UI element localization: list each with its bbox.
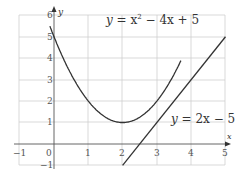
svg-text:−1: −1 [40,160,53,170]
svg-text:0: 0 [46,148,52,158]
svg-text:3: 3 [154,148,160,158]
svg-text:4: 4 [47,53,53,63]
x-axis-label: x [227,132,232,141]
y-tick-labels: −1 1 2 3 4 5 6 [40,10,53,170]
x-tick-labels: −1 0 1 2 3 4 5 [13,148,228,158]
svg-text:5: 5 [222,148,228,158]
parabola-curve [50,26,181,122]
line-label: y = 2x − 5 [170,112,235,126]
svg-text:4: 4 [188,148,194,158]
svg-text:3: 3 [47,75,53,85]
svg-text:−1: −1 [13,148,26,158]
chart: x y −1 0 1 2 3 4 5 −1 1 2 3 4 5 6 y = x2… [0,0,239,177]
x-axis-arrow-icon [225,142,231,147]
y-axis-label: y [57,7,64,17]
parabola-label: y = x2 − 4x + 5 [105,13,199,27]
svg-text:2: 2 [119,148,125,158]
svg-text:1: 1 [47,117,53,127]
svg-text:6: 6 [47,10,53,20]
svg-text:2: 2 [47,96,53,106]
svg-text:1: 1 [85,148,91,158]
